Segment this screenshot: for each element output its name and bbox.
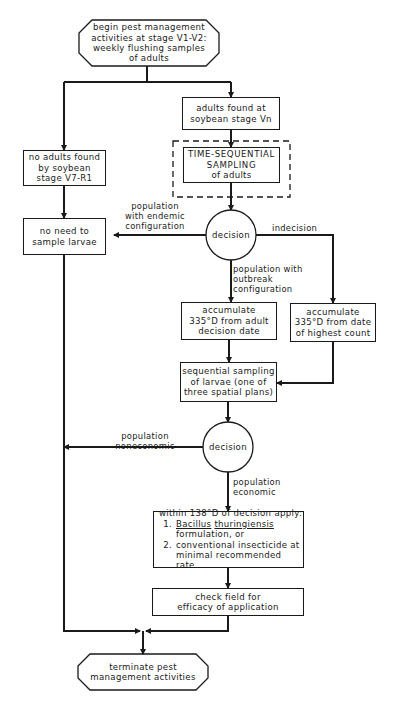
end-line-1: terminate pest — [109, 662, 177, 672]
no-adults-line-3: stage V7-R1 — [37, 173, 93, 183]
check-field-box: check field for efficacy of application — [152, 588, 304, 616]
item-1-rest: formulation, or — [176, 529, 244, 539]
outbreak-line-2: outbreak — [233, 274, 303, 284]
no-need-line-2: sample larvae — [32, 237, 97, 247]
start-line-4: of adults — [129, 53, 169, 63]
edge-label-indecision: indecision — [272, 223, 317, 233]
accumulate-adult-line-1: accumulate — [202, 305, 255, 315]
end-terminal: terminate pest management activities — [82, 655, 204, 689]
item-2-line-2: minimal recommended rate — [176, 550, 281, 570]
no-need-box: no need to sample larvae — [23, 218, 106, 255]
treatment-item-1: 1. Bacillus thuringiensis formulation, o… — [158, 519, 274, 540]
treatment-heading: within 138°D of decision apply: — [158, 508, 303, 518]
edge-label-economic: population economic — [233, 477, 281, 497]
accumulate-highest-line-1: accumulate — [306, 307, 359, 317]
accumulate-highest-box: accumulate 335°D from date of highest co… — [290, 303, 376, 342]
economic-line-2: economic — [233, 487, 281, 497]
endemic-line-1: population — [120, 201, 190, 211]
decision-2: decision — [203, 437, 253, 457]
start-line-2: activities at stage V1-V2: — [91, 33, 206, 43]
accumulate-highest-line-3: of highest count — [296, 328, 371, 338]
outbreak-line-1: population with — [233, 264, 303, 274]
accumulate-adult-line-2: 335°D from adult — [189, 316, 269, 326]
time-sequential-line-2: SAMPLING — [207, 160, 256, 170]
noneconomic-line-2: noneconomic — [112, 441, 178, 451]
accumulate-adult-box: accumulate 335°D from adult decision dat… — [181, 302, 277, 340]
endemic-line-2: with endemic — [120, 211, 190, 221]
check-field-line-1: check field for — [195, 592, 260, 602]
decision-1-label: decision — [212, 230, 250, 240]
edge-label-outbreak: population with outbreak configuration — [233, 264, 303, 294]
check-field-line-2: efficacy of application — [177, 602, 279, 612]
treatment-item-2: 2. conventional insecticide at minimal r… — [158, 540, 303, 571]
start-line-3: weekly flushing samples — [93, 43, 205, 53]
sequential-line-1: sequential sampling — [182, 366, 275, 376]
item-1-genus: Bacillus — [176, 519, 211, 529]
noneconomic-line-1: population — [112, 431, 178, 441]
economic-line-1: population — [233, 477, 281, 487]
adults-found-line-2: soybean stage Vn — [190, 114, 272, 124]
no-adults-line-2: by soybean — [38, 163, 91, 173]
adults-found-box: adults found at soybean stage Vn — [182, 97, 280, 130]
accumulate-highest-line-2: 335°D from date — [295, 317, 372, 327]
end-line-2: management activities — [90, 672, 195, 682]
item-2-line-1: conventional insecticide at — [176, 540, 300, 550]
adults-found-line-1: adults found at — [196, 103, 266, 113]
item-1-number: 1. — [158, 519, 176, 540]
sequential-line-3: three spatial plans) — [184, 387, 273, 397]
time-sequential-box: TIME-SEQUENTIAL SAMPLING of adults — [183, 147, 280, 183]
edge-label-noneconomic: population noneconomic — [112, 431, 178, 451]
treatment-box: within 138°D of decision apply: 1. Bacil… — [153, 511, 304, 568]
start-terminal: begin pest management activities at stag… — [84, 21, 214, 65]
decision-1: decision — [206, 225, 256, 245]
time-sequential-line-1: TIME-SEQUENTIAL — [188, 149, 275, 159]
edge-label-endemic: population with endemic configuration — [120, 201, 190, 231]
accumulate-adult-line-3: decision date — [198, 326, 259, 336]
start-line-1: begin pest management — [93, 22, 205, 32]
decision-2-label: decision — [209, 442, 247, 452]
sequential-line-2: of larvae (one of — [190, 377, 266, 387]
no-adults-box: no adults found by soybean stage V7-R1 — [23, 150, 106, 186]
no-adults-line-1: no adults found — [29, 152, 101, 162]
time-sequential-line-3: of adults — [211, 170, 251, 180]
no-need-line-1: no need to — [40, 226, 89, 236]
endemic-line-3: configuration — [120, 221, 190, 231]
outbreak-line-3: configuration — [233, 284, 303, 294]
item-2-number: 2. — [158, 540, 176, 571]
item-1-species: thuringiensis — [214, 519, 273, 529]
sequential-larvae-box: sequential sampling of larvae (one of th… — [180, 362, 277, 402]
